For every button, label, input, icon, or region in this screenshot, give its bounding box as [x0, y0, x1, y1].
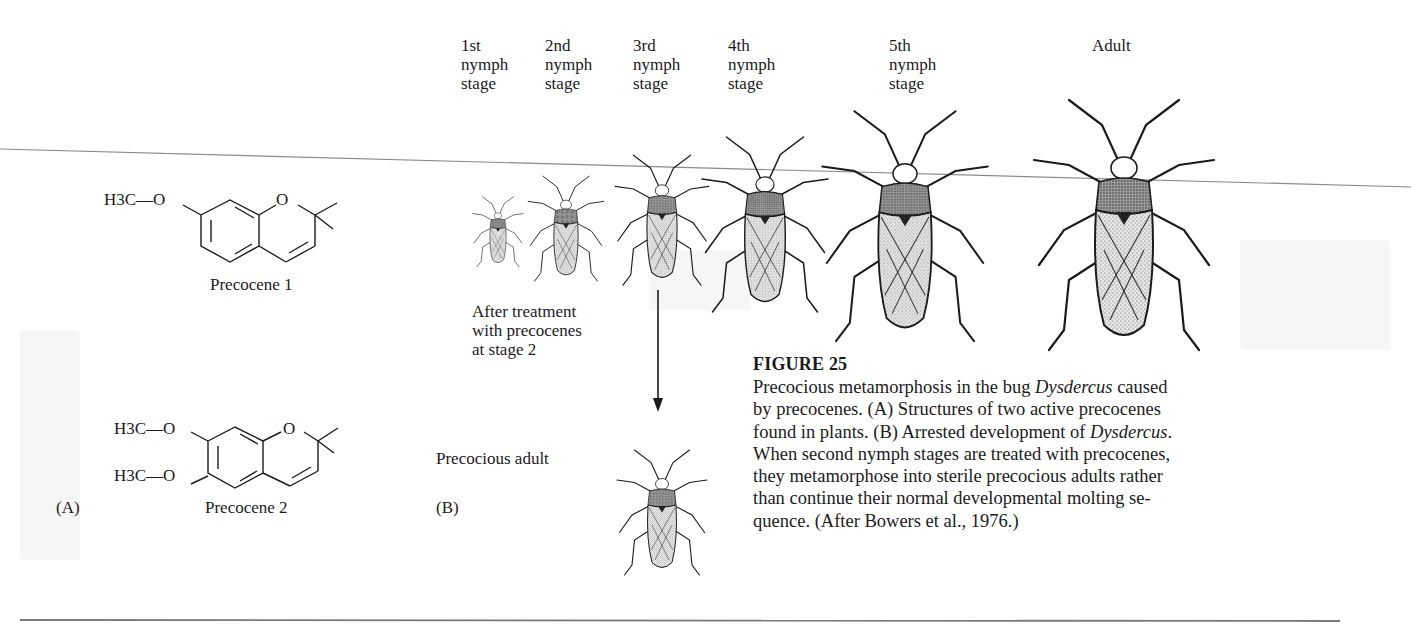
insect-stage-1-icon	[473, 197, 523, 267]
caption-line-1: Precocious metamorphosis in the bug Dysd…	[753, 376, 1223, 398]
insect-stage-2-icon	[528, 176, 604, 281]
caption-line-7: quence. (After Bowers et al., 1976.)	[753, 510, 1223, 532]
caption-line-6: than continue their normal developmental…	[753, 487, 1223, 509]
precocious-adult-label: Precocious adult	[436, 449, 549, 468]
caption-line-4: When second nymph stages are treated wit…	[753, 443, 1223, 465]
panel-b-label: (B)	[436, 498, 459, 518]
caption-line-2: by precocenes. (A) Structures of two act…	[753, 398, 1223, 420]
insect-stage-4-icon	[702, 137, 828, 312]
insect-stage-3-icon	[615, 155, 709, 285]
insect-stage-5-icon	[822, 111, 988, 341]
caption-lines: Precocious metamorphosis in the bug Dysd…	[753, 376, 1223, 532]
caption-line-3: found in plants. (B) Arrested developmen…	[753, 421, 1223, 443]
arrow-down-icon	[653, 290, 663, 412]
treatment-note: After treatment with precocenes at stage…	[472, 302, 582, 359]
insect-precocious-adult-icon	[617, 450, 707, 575]
insect-drawings	[0, 0, 1411, 631]
insect-adult-icon	[1034, 100, 1214, 350]
caption-line-5: they metamorphose into sterile precociou…	[753, 465, 1223, 487]
figure-number: FIGURE 25	[753, 354, 847, 375]
